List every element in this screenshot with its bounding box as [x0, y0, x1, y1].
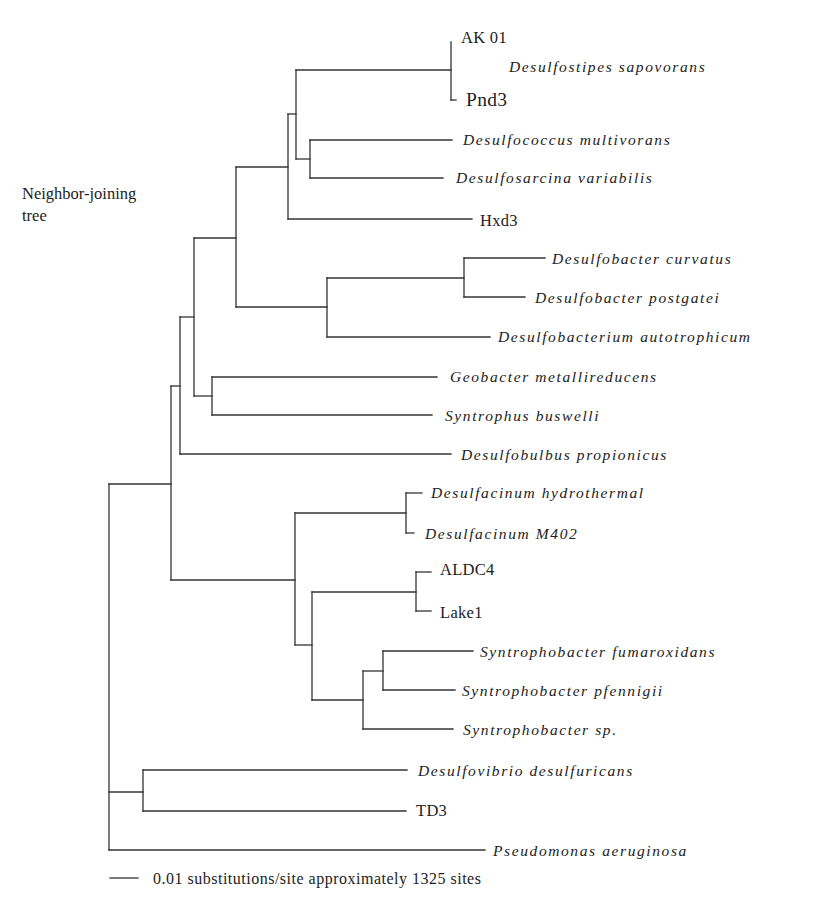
taxon-label-hxd3: Hxd3 [480, 211, 518, 230]
taxon-label-syntrophus: Syntrophus buswelli [445, 407, 600, 424]
taxon-label-desulfostipes: Desulfostipes sapovorans [508, 58, 706, 75]
taxon-label-dpostgatei: Desulfobacter postgatei [534, 289, 720, 306]
taxon-label-ak01: AK 01 [461, 28, 507, 47]
tree-title: Neighbor-joining tree [22, 184, 136, 225]
tree-title-line-1: Neighbor-joining [22, 184, 136, 203]
taxon-label-aldc4: ALDC4 [440, 560, 495, 579]
taxon-label-lake1: Lake1 [440, 603, 483, 622]
scale-bar: 0.01 substitutions/site approximately 13… [110, 870, 481, 888]
taxon-labels: AK 01Desulfostipes sapovoransPnd3Desulfo… [416, 28, 752, 859]
taxon-label-sfumaroxidans: Syntrophobacter fumaroxidans [480, 643, 716, 660]
taxon-label-dhydrothermal: Desulfacinum hydrothermal [430, 484, 645, 501]
taxon-label-desulfococcus: Desulfococcus multivorans [462, 131, 671, 148]
taxon-label-dcurvatus: Desulfobacter curvatus [551, 250, 732, 267]
taxon-label-desulfobulbus: Desulfobulbus propionicus [460, 446, 668, 463]
taxon-label-spfennigii: Syntrophobacter pfennigii [462, 682, 664, 699]
taxon-label-td3: TD3 [416, 801, 447, 820]
taxon-label-dm402: Desulfacinum M402 [424, 525, 578, 542]
taxon-label-dautotrophicum: Desulfobacterium autotrophicum [497, 328, 752, 345]
taxon-label-pnd3: Pnd3 [466, 89, 507, 110]
taxon-label-geobacter: Geobacter metallireducens [450, 368, 658, 385]
taxon-label-desulfosarcina: Desulfosarcina variabilis [455, 169, 653, 186]
scale-bar-label: 0.01 substitutions/site approximately 13… [153, 870, 481, 888]
phylogenetic-tree-figure: Neighbor-joining tree AK 01Desulfostipes… [0, 0, 815, 914]
taxon-label-desulfovibrio: Desulfovibrio desulfuricans [417, 762, 634, 779]
taxon-label-pseudomonas: Pseudomonas aeruginosa [492, 842, 688, 859]
taxon-label-ssp: Syntrophobacter sp. [463, 721, 618, 738]
tree-title-line-2: tree [22, 206, 47, 225]
